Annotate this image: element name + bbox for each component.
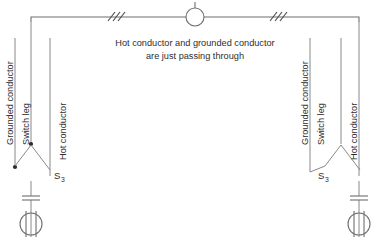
note-line-2: are just passing through <box>146 51 244 61</box>
switch-blade-to-grounded[interactable] <box>325 145 341 166</box>
junction-box-circle <box>186 8 204 26</box>
left-switch-label: S <box>54 170 60 181</box>
left-three-way-switch[interactable] <box>15 145 50 170</box>
right-switch-label: S <box>318 170 324 181</box>
right-switch-subscript: 3 <box>325 176 329 183</box>
left-label-hot-conductor: Hot conductor <box>58 103 68 160</box>
right-label-grounded-conductor: Grounded conductor <box>300 61 310 145</box>
top-bus <box>31 17 359 22</box>
right-label-switch-leg: Switch leg <box>316 103 326 145</box>
diagram-canvas: Grounded conductor Switch leg Hot conduc… <box>0 0 390 247</box>
left-switch-subscript: 3 <box>61 176 65 183</box>
right-label-hot-conductor: Hot conductor <box>349 103 359 160</box>
wiring-diagram: Grounded conductor Switch leg Hot conduc… <box>0 0 390 247</box>
junction-box <box>186 2 204 26</box>
switch-blade-to-hot[interactable] <box>31 145 50 170</box>
switch-blade-to-grounded[interactable] <box>15 145 31 166</box>
left-label-switch-leg: Switch leg <box>21 103 31 145</box>
left-label-grounded-conductor: Grounded conductor <box>5 61 15 145</box>
note-line-1: Hot conductor and grounded conductor <box>115 38 274 48</box>
